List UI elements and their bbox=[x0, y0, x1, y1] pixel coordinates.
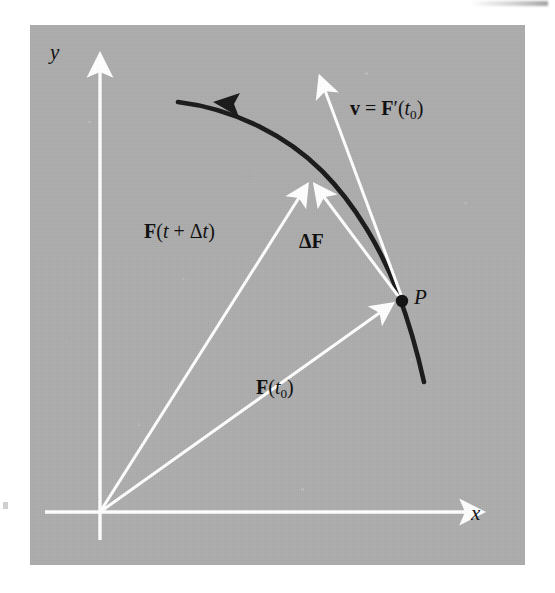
diagram-panel bbox=[30, 25, 525, 565]
figure-root: y x v = F′(t0) F(t + Δt) ΔF F(t0) P bbox=[0, 0, 555, 593]
position-vector-later-label: F(t + Δt) bbox=[144, 221, 215, 241]
velocity-paren-close: ) bbox=[417, 97, 424, 119]
vector-diagram-svg bbox=[30, 25, 525, 565]
initial-paren-open: ( bbox=[268, 376, 275, 398]
y-axis-label-text: y bbox=[50, 40, 59, 64]
initial-F: F bbox=[256, 376, 268, 398]
later-paren-close: ) bbox=[208, 220, 215, 242]
initial-paren-close: ) bbox=[287, 376, 294, 398]
later-paren-open: ( bbox=[156, 220, 163, 242]
delta-F: F bbox=[312, 230, 324, 252]
velocity-paren-open: ( bbox=[398, 97, 405, 119]
velocity-t-subscript: 0 bbox=[410, 107, 417, 122]
difference-vector bbox=[315, 185, 402, 301]
difference-vector-label: ΔF bbox=[299, 231, 324, 251]
point-p-label: P bbox=[414, 287, 427, 308]
velocity-symbol: v bbox=[350, 97, 360, 119]
scan-artifact-left bbox=[3, 502, 8, 509]
position-vector-initial bbox=[100, 304, 392, 512]
velocity-equals: = bbox=[360, 97, 381, 119]
later-delta: Δ bbox=[190, 220, 203, 242]
velocity-F: F bbox=[381, 97, 393, 119]
later-F: F bbox=[144, 220, 156, 242]
velocity-vector-label: v = F′(t0) bbox=[350, 98, 423, 121]
point-p-marker bbox=[396, 295, 408, 307]
scan-artifact-top bbox=[470, 1, 548, 6]
x-axis-label-text: x bbox=[471, 501, 480, 525]
later-plus: + bbox=[168, 220, 189, 242]
delta-symbol: Δ bbox=[299, 230, 312, 252]
x-axis-label: x bbox=[471, 503, 480, 524]
y-axis-label: y bbox=[50, 42, 59, 63]
position-vector-initial-label: F(t0) bbox=[256, 377, 294, 400]
point-p-text: P bbox=[414, 285, 427, 309]
